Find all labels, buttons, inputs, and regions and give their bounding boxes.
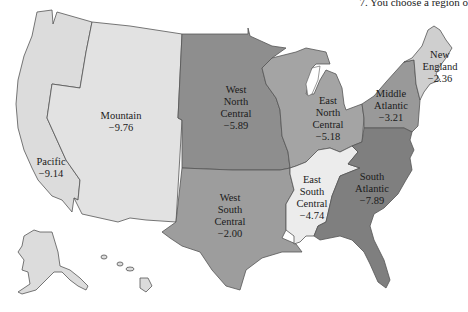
svg-text:Central: Central bbox=[297, 198, 328, 209]
us-census-map: Pacific −9.14 Mountain −9.76 West North … bbox=[0, 0, 468, 312]
svg-text:England: England bbox=[423, 61, 459, 72]
svg-text:West: West bbox=[226, 84, 247, 95]
svg-text:West: West bbox=[220, 192, 241, 203]
label-south-atlantic: South Atlantic −7.89 bbox=[355, 171, 389, 206]
svg-text:New: New bbox=[430, 49, 450, 60]
svg-text:Mountain: Mountain bbox=[101, 110, 143, 121]
svg-text:−3.21: −3.21 bbox=[379, 112, 403, 123]
svg-text:East: East bbox=[303, 174, 321, 185]
svg-text:Middle: Middle bbox=[376, 88, 407, 99]
svg-text:−2.00: −2.00 bbox=[218, 228, 242, 239]
svg-text:South: South bbox=[360, 171, 385, 182]
svg-text:−5.89: −5.89 bbox=[224, 120, 248, 131]
svg-text:North: North bbox=[316, 107, 341, 118]
region-hawaii[interactable] bbox=[101, 255, 152, 292]
svg-text:−5.18: −5.18 bbox=[316, 131, 340, 142]
label-middle-atlantic: Middle Atlantic −3.21 bbox=[374, 88, 408, 123]
svg-text:Atlantic: Atlantic bbox=[374, 100, 408, 111]
region-alaska[interactable] bbox=[18, 230, 88, 294]
svg-text:−4.74: −4.74 bbox=[300, 210, 325, 221]
svg-text:East: East bbox=[319, 95, 337, 106]
svg-text:Central: Central bbox=[215, 216, 246, 227]
svg-text:−2.36: −2.36 bbox=[428, 73, 452, 84]
svg-text:Pacific: Pacific bbox=[36, 156, 65, 167]
svg-text:−9.14: −9.14 bbox=[39, 168, 64, 179]
label-pacific: Pacific −9.14 bbox=[36, 156, 65, 179]
svg-text:South: South bbox=[218, 204, 243, 215]
svg-text:Central: Central bbox=[313, 119, 344, 130]
svg-text:North: North bbox=[224, 96, 249, 107]
svg-text:−9.76: −9.76 bbox=[109, 122, 133, 133]
svg-text:−7.89: −7.89 bbox=[360, 195, 384, 206]
svg-text:South: South bbox=[300, 186, 325, 197]
svg-text:Atlantic: Atlantic bbox=[355, 183, 389, 194]
svg-text:Central: Central bbox=[221, 108, 252, 119]
